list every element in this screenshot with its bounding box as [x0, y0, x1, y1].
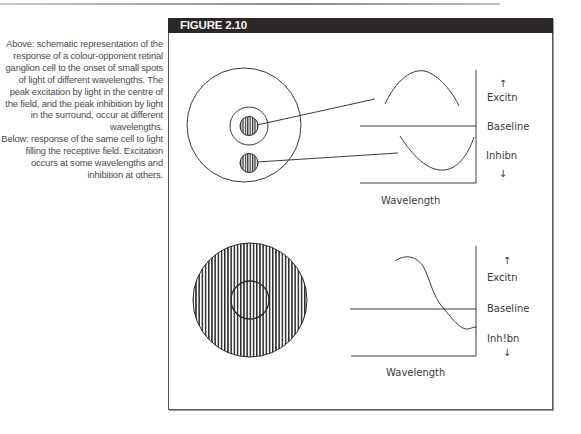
bottom-inhibition-label: Inh!bn	[487, 333, 519, 344]
down-arrow-icon: ↓	[499, 168, 507, 179]
bottom-excitation-label: Excitn	[487, 272, 518, 283]
bottom-receptive-field	[193, 243, 307, 357]
up-arrow-icon: ↑	[503, 255, 511, 266]
response-curve	[395, 257, 477, 329]
top-inhibition-label: Inhibn	[486, 150, 517, 161]
up-arrow-icon: ↑	[499, 78, 507, 89]
full-field-circle	[193, 243, 307, 357]
top-receptive-field	[187, 68, 398, 182]
inhibition-curve	[400, 136, 474, 170]
bottom-response-graph	[350, 246, 477, 356]
top-response-graph	[360, 70, 476, 183]
bottom-wavelength-label: Wavelength	[386, 367, 445, 378]
down-arrow-icon: ↓	[503, 347, 511, 358]
top-wavelength-label: Wavelength	[381, 195, 440, 206]
excitation-curve	[385, 71, 459, 106]
figure-diagram: ↑ Excitn Baseline Inhibn ↓ Wavelength ↑ …	[0, 0, 581, 434]
centre-spot	[240, 117, 258, 136]
centre-leader-line	[257, 99, 375, 125]
surround-leader-line	[257, 153, 398, 162]
top-excitation-label: Excitn	[487, 92, 518, 103]
bottom-baseline-label: Baseline	[487, 303, 529, 314]
top-baseline-label: Baseline	[487, 121, 529, 132]
surround-spot	[240, 154, 258, 173]
